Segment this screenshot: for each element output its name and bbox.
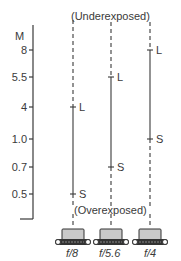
range-column-f4	[147, 22, 153, 226]
tick-label-0-7: 0.7	[3, 162, 27, 173]
flash-icon-f4	[132, 229, 168, 245]
aperture-label-f8: f/8	[66, 248, 78, 259]
overexposed-label: (Overexposed)	[74, 205, 147, 216]
aperture-label-f4: f/4	[144, 248, 156, 259]
flash-icon-f5-6	[93, 229, 129, 245]
tick-label-5-5: 5.5	[3, 72, 27, 83]
tick-label-8: 8	[3, 45, 27, 56]
short-marker-f8: S	[79, 189, 86, 200]
tick-label-0-5: 0.5	[3, 189, 27, 200]
long-marker-f5-6: L	[117, 72, 123, 83]
underexposed-label: (Underexposed)	[71, 11, 150, 22]
range-column-f5-6	[108, 22, 114, 226]
short-marker-f4: S	[156, 134, 163, 145]
tick-label-1-0: 1.0	[3, 134, 27, 145]
tick-label-4: 4	[3, 102, 27, 113]
long-marker-f4: L	[156, 45, 162, 56]
range-column-f8	[70, 20, 76, 226]
aperture-label-f5-6: f/5.6	[99, 248, 120, 259]
flash-icon-f8	[55, 229, 91, 245]
short-marker-f5-6: S	[117, 162, 124, 173]
exposure-range-diagram	[0, 0, 181, 261]
long-marker-f8: L	[79, 102, 85, 113]
axis-unit-label: M	[15, 31, 24, 42]
